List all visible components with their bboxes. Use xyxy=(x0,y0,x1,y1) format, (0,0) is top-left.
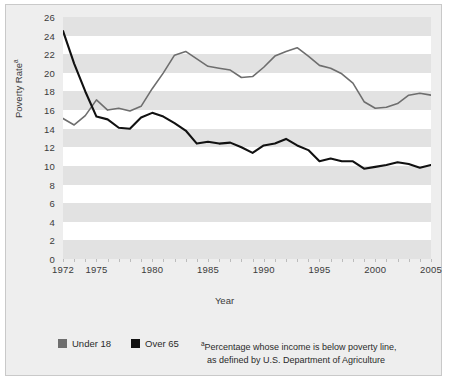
x-tick-mark xyxy=(386,259,387,262)
x-tick-label: 1990 xyxy=(253,264,275,275)
x-axis-title: Year xyxy=(6,295,443,306)
y-tick-label: 6 xyxy=(50,198,55,209)
x-tick-mark xyxy=(208,259,209,262)
x-tick-label: 1975 xyxy=(85,264,107,275)
x-tick-mark xyxy=(375,259,376,262)
y-axis: 02468101214161820222426 xyxy=(6,5,63,271)
x-tick-label: 2000 xyxy=(364,264,386,275)
x-tick-mark xyxy=(264,259,265,262)
x-tick-mark xyxy=(186,259,187,262)
y-axis-title: Poverty Ratea xyxy=(12,100,24,118)
x-tick-mark xyxy=(130,259,131,262)
y-tick-label: 18 xyxy=(44,86,55,97)
x-tick-label: 1995 xyxy=(309,264,331,275)
y-tick-label: 10 xyxy=(44,160,55,171)
x-tick-label: 1980 xyxy=(141,264,163,275)
x-tick-mark xyxy=(342,259,343,262)
series-line-under-18 xyxy=(63,48,431,125)
plot-area xyxy=(63,17,431,259)
x-tick-mark xyxy=(230,259,231,262)
x-tick-mark xyxy=(319,259,320,262)
legend-item-over-65: Over 65 xyxy=(131,338,179,349)
x-tick-mark xyxy=(253,259,254,262)
x-tick-mark xyxy=(297,259,298,262)
x-tick-label: 2005 xyxy=(420,264,442,275)
x-tick-mark xyxy=(353,259,354,262)
x-tick-mark xyxy=(152,259,153,262)
series-line-over-65 xyxy=(63,31,431,169)
y-axis-title-text: Poverty Rate xyxy=(13,63,24,118)
x-tick-mark xyxy=(63,259,64,262)
y-tick-label: 4 xyxy=(50,216,55,227)
x-tick-mark xyxy=(431,259,432,262)
y-tick-label: 14 xyxy=(44,123,55,134)
x-tick-label: 1985 xyxy=(197,264,219,275)
chart-legend: Under 18 Over 65 aPercentage whose incom… xyxy=(58,338,397,366)
plot-lines xyxy=(63,17,431,259)
legend-label-over-65: Over 65 xyxy=(145,338,179,349)
footnote-line-2: as defined by U.S. Department of Agricul… xyxy=(201,354,397,367)
x-tick-mark xyxy=(141,259,142,262)
x-tick-mark xyxy=(241,259,242,262)
x-tick-mark xyxy=(308,259,309,262)
legend-label-under-18: Under 18 xyxy=(72,338,111,349)
x-tick-mark xyxy=(275,259,276,262)
x-tick-mark xyxy=(197,259,198,262)
x-tick-mark xyxy=(175,259,176,262)
x-tick-mark xyxy=(420,259,421,262)
x-tick-mark xyxy=(96,259,97,262)
x-tick-mark xyxy=(331,259,332,262)
y-tick-label: 26 xyxy=(44,12,55,23)
legend-swatch-over-65 xyxy=(131,339,140,348)
x-tick-mark xyxy=(409,259,410,262)
x-axis: 19721975198019851990199520002005 xyxy=(63,259,431,281)
chart-footnote: aPercentage whose income is below povert… xyxy=(201,338,397,366)
y-tick-label: 24 xyxy=(44,30,55,41)
x-tick-mark xyxy=(286,259,287,262)
x-tick-mark xyxy=(398,259,399,262)
y-axis-title-superscript: a xyxy=(12,59,19,63)
x-tick-mark xyxy=(364,259,365,262)
y-tick-label: 2 xyxy=(50,235,55,246)
footnote-line-1: Percentage whose income is below poverty… xyxy=(205,342,397,352)
y-tick-label: 22 xyxy=(44,49,55,60)
y-tick-label: 16 xyxy=(44,105,55,116)
legend-item-under-18: Under 18 xyxy=(58,338,111,349)
y-tick-label: 20 xyxy=(44,67,55,78)
legend-swatch-under-18 xyxy=(58,339,67,348)
x-tick-mark xyxy=(74,259,75,262)
x-tick-mark xyxy=(108,259,109,262)
y-tick-label: 8 xyxy=(50,179,55,190)
x-tick-mark xyxy=(85,259,86,262)
x-tick-mark xyxy=(119,259,120,262)
x-tick-label: 1972 xyxy=(52,264,74,275)
x-tick-mark xyxy=(163,259,164,262)
poverty-rate-chart-figure: 02468101214161820222426 Poverty Ratea 19… xyxy=(5,4,442,376)
y-tick-label: 12 xyxy=(44,142,55,153)
x-tick-mark xyxy=(219,259,220,262)
y-tick-label: 0 xyxy=(50,254,55,265)
